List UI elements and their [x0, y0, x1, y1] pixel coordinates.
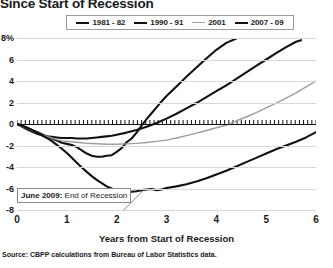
x-axis-tick-label: 6 — [313, 214, 319, 225]
y-axis-tick-label: 2 — [9, 98, 14, 108]
chart-legend: 1981 - 821990 - 9120012007 - 09 — [66, 15, 294, 30]
annotation-bold-label: June 2009: — [21, 191, 62, 200]
legend-item-3: 2007 - 09 — [235, 18, 284, 27]
legend-item-2: 2001 — [192, 18, 225, 27]
y-axis-tick-label: -4 — [6, 162, 14, 172]
x-axis-tick-label: 3 — [164, 214, 170, 225]
legend-item-0: 1981 - 82 — [76, 18, 125, 27]
series-line-2001 — [17, 81, 316, 144]
x-axis-title: Years from Start of Recession — [0, 233, 333, 244]
legend-swatch-icon — [134, 22, 147, 24]
x-axis-tick-label: 1 — [64, 214, 70, 225]
gridline — [17, 60, 316, 61]
legend-swatch-icon — [192, 22, 205, 23]
y-axis-tick-label: 4 — [9, 76, 14, 86]
legend-swatch-icon — [235, 22, 248, 24]
x-axis-tick-label: 4 — [214, 214, 220, 225]
zero-axis-line — [17, 124, 316, 125]
x-axis-tick-label: 2 — [114, 214, 120, 225]
gridline — [17, 210, 316, 211]
gridline — [17, 81, 316, 82]
legend-label: 2001 — [208, 18, 225, 27]
source-note: Source: CBPP calculations from Bureau of… — [2, 251, 217, 258]
legend-item-1: 1990 - 91 — [134, 18, 183, 27]
chart-title: Since Start of Recession — [0, 0, 154, 11]
gridline — [17, 103, 316, 104]
y-axis-tick-label: 8% — [1, 33, 14, 43]
y-axis-labels: -8-6-4-202468% — [0, 38, 14, 210]
gridline — [17, 38, 316, 39]
y-axis-tick-label: 0 — [9, 119, 14, 129]
y-axis-tick-label: 6 — [9, 55, 14, 65]
gridline — [17, 167, 316, 168]
legend-swatch-icon — [76, 22, 89, 24]
x-axis-labels: 0123456 — [0, 214, 333, 230]
legend-label: 2007 - 09 — [251, 18, 284, 27]
recession-end-annotation: June 2009: End of Recession — [17, 188, 131, 203]
plot-area — [17, 38, 316, 210]
annotation-text: End of Recession — [62, 191, 127, 200]
chart-container: Since Start of Recession 1981 - 821990 -… — [0, 0, 333, 268]
gridline — [17, 146, 316, 147]
x-axis-tick-label: 5 — [263, 214, 269, 225]
series-line-2007-09 — [17, 124, 316, 192]
y-axis-tick-label: -6 — [6, 184, 14, 194]
legend-label: 1990 - 91 — [150, 18, 183, 27]
x-axis-tick-label: 0 — [14, 214, 20, 225]
y-axis-tick-label: -2 — [6, 141, 14, 151]
legend-label: 1981 - 82 — [92, 18, 125, 27]
